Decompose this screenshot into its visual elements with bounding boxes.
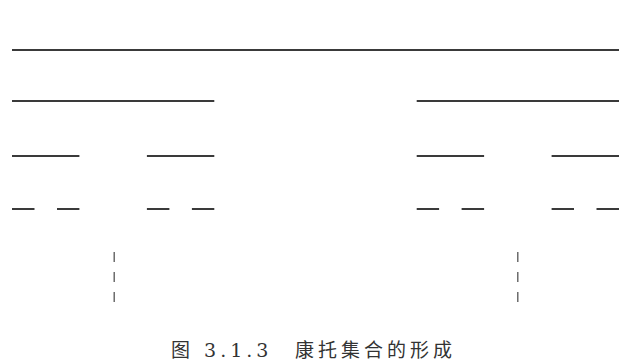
figure-caption: 图 3.1.3 康托集合的形成 bbox=[171, 339, 456, 361]
